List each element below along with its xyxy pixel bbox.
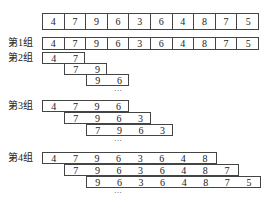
group-3-label: 第3组 xyxy=(8,100,33,112)
window-cell: 9 xyxy=(86,101,108,111)
window-cell: 4 xyxy=(173,165,195,175)
array-cell: 5 xyxy=(237,14,259,29)
array-cell: 6 xyxy=(108,14,130,29)
window-cell: 3 xyxy=(130,113,152,123)
ellipsis: ··· xyxy=(114,189,122,197)
window-cell: 9 xyxy=(87,177,109,187)
group-3-window-1: 4 7 9 6 xyxy=(42,100,129,112)
group-2-window-3: 9 6 xyxy=(86,74,129,86)
window-cell: 3 xyxy=(130,177,152,187)
window-cell: 7 xyxy=(65,153,87,163)
window-cell: 8 xyxy=(195,165,217,175)
window-cell: 3 xyxy=(152,125,174,135)
group-3-window-2: 7 9 6 3 xyxy=(64,112,151,124)
window-cell: 9 xyxy=(87,64,109,74)
array-cell: 8 xyxy=(194,14,216,29)
array-cell: 7 xyxy=(216,14,238,29)
window-cell: 6 xyxy=(152,177,174,187)
array-cell: 9 xyxy=(86,14,108,29)
group-4-window-3: 9 6 3 6 4 8 7 5 xyxy=(86,176,261,188)
window-cell: 9 xyxy=(86,153,108,163)
group-4-window-2: 7 9 6 3 6 4 8 7 xyxy=(64,164,239,176)
window-cell: 7 xyxy=(65,53,87,63)
ellipsis: ··· xyxy=(114,87,122,95)
group-2-label: 第2组 xyxy=(8,52,33,64)
window-cell: 9 xyxy=(109,125,131,135)
group-1-label: 第1组 xyxy=(8,37,33,49)
window-cell: 6 xyxy=(108,113,130,123)
array-cell: 7 xyxy=(216,38,238,49)
group-3-window-3: 7 9 6 3 xyxy=(86,124,173,136)
window-cell: 8 xyxy=(195,177,217,187)
group-4-label: 第4组 xyxy=(8,152,33,164)
window-cell: 8 xyxy=(194,153,216,163)
source-array: 4 7 9 6 3 6 4 8 7 5 xyxy=(42,13,259,30)
array-cell: 6 xyxy=(151,38,173,49)
window-cell: 4 xyxy=(173,153,195,163)
window-cell: 3 xyxy=(130,165,152,175)
window-cell: 7 xyxy=(65,165,87,175)
array-cell: 3 xyxy=(129,38,151,49)
window-cell: 7 xyxy=(65,64,87,74)
array-cell: 4 xyxy=(173,38,195,49)
array-cell: 7 xyxy=(65,14,87,29)
window-cell: 9 xyxy=(87,75,109,85)
array-cell: 9 xyxy=(86,38,108,49)
window-cell: 6 xyxy=(108,165,130,175)
array-cell: 6 xyxy=(108,38,130,49)
window-cell: 6 xyxy=(130,125,152,135)
window-cell: 4 xyxy=(43,101,65,111)
group-1-row: 4 7 9 6 3 6 4 8 7 5 xyxy=(42,37,259,50)
array-cell: 7 xyxy=(65,38,87,49)
array-cell: 6 xyxy=(151,14,173,29)
window-cell: 4 xyxy=(173,177,195,187)
array-cell: 4 xyxy=(173,14,195,29)
array-cell: 3 xyxy=(129,14,151,29)
window-cell: 7 xyxy=(65,101,87,111)
window-cell: 5 xyxy=(238,177,260,187)
array-cell: 4 xyxy=(43,38,65,49)
window-cell: 6 xyxy=(151,165,173,175)
window-cell: 7 xyxy=(65,113,87,123)
group-4-window-1: 4 7 9 6 3 6 4 8 xyxy=(42,152,217,164)
window-cell: 7 xyxy=(87,125,109,135)
window-cell: 4 xyxy=(43,153,65,163)
window-cell: 6 xyxy=(109,177,131,187)
window-cell: 9 xyxy=(87,165,109,175)
window-cell: 4 xyxy=(43,53,65,63)
array-cell: 4 xyxy=(43,14,65,29)
window-cell: 6 xyxy=(109,75,131,85)
window-cell: 6 xyxy=(108,153,130,163)
ellipsis: ··· xyxy=(114,137,122,145)
array-cell: 5 xyxy=(237,38,259,49)
window-cell: 6 xyxy=(108,101,130,111)
window-cell: 7 xyxy=(216,165,238,175)
window-cell: 7 xyxy=(217,177,239,187)
window-cell: 6 xyxy=(151,153,173,163)
window-cell: 3 xyxy=(129,153,151,163)
window-cell: 9 xyxy=(87,113,109,123)
array-cell: 8 xyxy=(194,38,216,49)
